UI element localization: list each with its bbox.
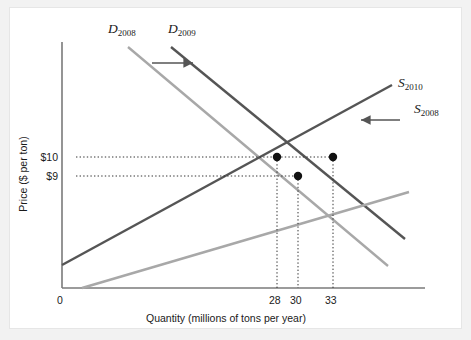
curve-label-supply-2010: S2010: [398, 76, 423, 90]
point-eq-2009-s2008: [329, 153, 337, 161]
point-eq-2009-s2010: [273, 153, 281, 161]
curve-label-letter: S: [398, 75, 405, 90]
origin-label: 0: [57, 295, 63, 306]
y-axis-title: Price ($ per ton): [17, 119, 29, 229]
x-tick-label-30: 30: [290, 295, 302, 306]
curve-label-subscript: 2010: [405, 82, 423, 92]
curve-label-demand-2009: D2009: [168, 22, 196, 36]
y-tick-label-9: $9: [26, 171, 58, 182]
curve-label-letter: S: [414, 101, 421, 116]
curve-label-subscript: 2008: [118, 28, 136, 38]
curve-label-demand-2008: D2008: [108, 22, 136, 36]
figure-container: D2008 D2009 S2010 S2008 $10 $9 0 28 30 3…: [0, 0, 471, 340]
curve-label-letter: D: [108, 21, 118, 36]
y-tick-label-10: $10: [26, 152, 58, 163]
x-axis-title: Quantity (millions of tons per year): [146, 313, 306, 324]
curve-label-subscript: 2008: [421, 108, 439, 118]
x-tick-label-28: 28: [269, 295, 281, 306]
curve-label-supply-2008: S2008: [414, 102, 439, 116]
supply-curve-2010: [62, 85, 392, 265]
supply-demand-chart: [0, 0, 471, 340]
curve-label-letter: D: [168, 21, 178, 36]
supply-curve-2008: [82, 192, 409, 288]
point-eq-2008: [294, 172, 302, 180]
curve-label-subscript: 2009: [178, 28, 196, 38]
x-tick-label-33: 33: [325, 295, 337, 306]
